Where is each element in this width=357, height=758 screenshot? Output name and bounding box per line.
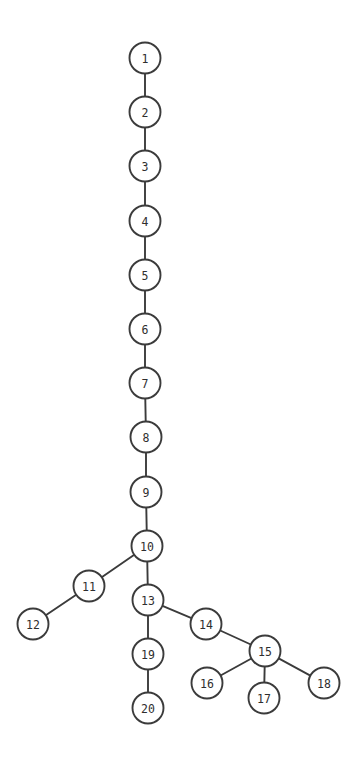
- graph-node-18[interactable]: 18: [309, 668, 340, 699]
- graph-node-3[interactable]: 3: [130, 151, 161, 182]
- graph-edge-14-15: [220, 630, 252, 645]
- graph-node-label-4: 4: [142, 215, 149, 229]
- graph-node-8[interactable]: 8: [131, 422, 162, 453]
- tree-graph-diagram: 1234567891011121314151617181920: [0, 0, 357, 758]
- graph-node-10[interactable]: 10: [132, 531, 163, 562]
- graph-node-label-17: 17: [257, 692, 271, 706]
- graph-node-20[interactable]: 20: [133, 693, 164, 724]
- graph-node-label-11: 11: [82, 580, 96, 594]
- graph-node-label-5: 5: [142, 269, 149, 283]
- graph-node-label-9: 9: [143, 486, 150, 500]
- node-layer: 1234567891011121314151617181920: [18, 43, 340, 724]
- graph-node-label-14: 14: [199, 618, 213, 632]
- graph-node-17[interactable]: 17: [249, 683, 280, 714]
- graph-node-13[interactable]: 13: [133, 585, 164, 616]
- graph-edge-13-14: [162, 606, 192, 619]
- graph-node-label-12: 12: [26, 618, 40, 632]
- graph-node-label-20: 20: [141, 702, 155, 716]
- graph-node-label-7: 7: [142, 377, 149, 391]
- graph-edge-10-11: [101, 555, 134, 578]
- graph-edge-11-12: [45, 594, 76, 615]
- graph-node-label-13: 13: [141, 594, 155, 608]
- graph-node-label-10: 10: [140, 540, 154, 554]
- graph-node-label-16: 16: [200, 677, 214, 691]
- graph-node-label-18: 18: [317, 677, 331, 691]
- graph-node-6[interactable]: 6: [130, 314, 161, 345]
- graph-node-label-8: 8: [143, 431, 150, 445]
- graph-node-4[interactable]: 4: [130, 206, 161, 237]
- graph-node-label-19: 19: [141, 648, 155, 662]
- graph-node-label-1: 1: [142, 52, 149, 66]
- graph-node-9[interactable]: 9: [131, 477, 162, 508]
- graph-node-label-3: 3: [142, 160, 149, 174]
- graph-node-5[interactable]: 5: [130, 260, 161, 291]
- graph-node-15[interactable]: 15: [250, 636, 281, 667]
- graph-node-2[interactable]: 2: [130, 97, 161, 128]
- graph-node-1[interactable]: 1: [130, 43, 161, 74]
- graph-node-16[interactable]: 16: [192, 668, 223, 699]
- graph-node-label-2: 2: [142, 106, 149, 120]
- graph-edge-15-18: [278, 658, 311, 676]
- graph-node-7[interactable]: 7: [130, 368, 161, 399]
- graph-node-label-15: 15: [258, 645, 272, 659]
- graph-edge-15-16: [220, 658, 252, 676]
- graph-node-label-6: 6: [142, 323, 149, 337]
- graph-node-12[interactable]: 12: [18, 609, 49, 640]
- graph-node-14[interactable]: 14: [191, 609, 222, 640]
- graph-node-11[interactable]: 11: [74, 571, 105, 602]
- graph-canvas: 1234567891011121314151617181920: [0, 0, 357, 758]
- graph-node-19[interactable]: 19: [133, 639, 164, 670]
